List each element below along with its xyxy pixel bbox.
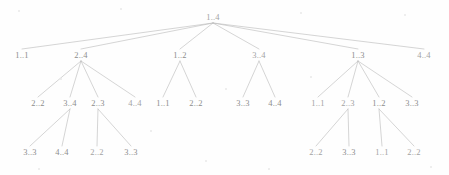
tree-edge <box>62 109 70 146</box>
tree-node-n2b1: 3..3 <box>23 148 37 157</box>
tree-edge <box>358 61 412 97</box>
tree-node-n2c2: 3..3 <box>124 148 138 157</box>
tree-edge <box>213 23 358 49</box>
tree-node-n5: 1..3 <box>351 51 365 60</box>
tree-edge <box>243 61 259 97</box>
tree-edge <box>30 109 70 146</box>
tree-edge <box>358 61 379 97</box>
tree-node-n4a: 3..3 <box>236 99 250 108</box>
tree-node-n2d: 4..4 <box>128 99 142 108</box>
tree-node-n5a: 1..1 <box>311 99 325 108</box>
tree-node-n5b2: 3..3 <box>342 148 356 157</box>
tree-edge <box>163 61 180 97</box>
tree-edge <box>213 23 424 49</box>
tree-edge <box>318 61 358 97</box>
tree-node-n4: 3..4 <box>252 51 266 60</box>
tree-edge <box>379 109 382 146</box>
tree-edge <box>259 61 275 97</box>
tree-node-n5b: 2..3 <box>341 99 355 108</box>
tree-edge <box>379 109 414 146</box>
scan-speck <box>225 88 227 90</box>
tree-node-n3b: 2..2 <box>189 99 203 108</box>
tree-edge <box>81 23 213 49</box>
tree-node-n2b2: 4..4 <box>55 148 69 157</box>
scan-speck <box>268 168 270 170</box>
tree-node-n5c: 1..2 <box>372 99 386 108</box>
tree-node-n0: 1..4 <box>206 13 220 22</box>
tree-edge <box>70 61 81 97</box>
recursion-tree-diagram: 1..41..12..41..23..41..34..42..23..42..3… <box>0 0 449 175</box>
tree-node-n2c: 2..3 <box>91 99 105 108</box>
scan-speck <box>430 166 432 168</box>
tree-edge <box>348 109 349 146</box>
tree-edge <box>98 109 131 146</box>
tree-node-n1: 1..1 <box>15 51 29 60</box>
tree-edge <box>97 109 98 146</box>
tree-node-n5c1: 1..1 <box>375 148 389 157</box>
tree-node-n3a: 1..1 <box>156 99 170 108</box>
tree-node-n3: 1..2 <box>173 51 187 60</box>
tree-node-n2b: 3..4 <box>63 99 77 108</box>
tree-node-n6: 4..4 <box>417 51 431 60</box>
scan-speck <box>60 78 62 80</box>
scan-speck <box>205 160 207 162</box>
tree-edge <box>180 61 196 97</box>
tree-node-n2a: 2..2 <box>31 99 45 108</box>
scan-speck <box>310 76 312 78</box>
tree-edge <box>316 109 348 146</box>
scan-speck <box>404 14 406 16</box>
tree-edge <box>22 23 213 49</box>
scan-speck <box>120 8 122 10</box>
tree-node-n5b1: 2..2 <box>309 148 323 157</box>
tree-node-n5d: 3..3 <box>405 99 419 108</box>
tree-node-n2c1: 2..2 <box>90 148 104 157</box>
tree-edge <box>81 61 135 97</box>
tree-node-n5c2: 2..2 <box>407 148 421 157</box>
tree-node-n4b: 4..4 <box>268 99 282 108</box>
tree-node-n2: 2..4 <box>74 51 88 60</box>
tree-edge <box>348 61 358 97</box>
